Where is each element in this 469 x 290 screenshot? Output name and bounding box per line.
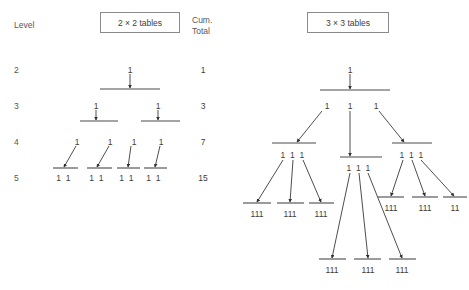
tree-arrow — [303, 160, 321, 202]
tree-node-label: 1 — [159, 137, 164, 147]
tree-node-label: 111 — [326, 265, 339, 275]
tree-arrow — [128, 146, 131, 167]
tree-arrow — [64, 146, 76, 167]
tree-arrow — [391, 160, 403, 196]
tree-node-label: 1 — [128, 65, 133, 75]
tree-arrow — [97, 146, 109, 167]
cum-total-value-level5: 15 — [198, 173, 207, 183]
tree-arrow — [421, 160, 454, 196]
tree-node-label: 11 — [451, 203, 460, 213]
cum-total-value-level4: 7 — [201, 137, 206, 147]
tree-node-label: 1 1 1 — [347, 163, 372, 173]
tree-diagram-svg — [0, 0, 469, 290]
tree-arrow — [297, 111, 322, 142]
cum-total-value-level3: 3 — [201, 101, 206, 111]
tree-node-label: 1 — [132, 137, 137, 147]
tree-arrow — [257, 160, 283, 202]
tree-arrow — [412, 160, 425, 196]
tree-arrow — [368, 173, 402, 258]
level-label-5: 5 — [14, 173, 19, 184]
tree-node-label: 111 — [396, 265, 409, 275]
level-label-3: 3 — [14, 101, 19, 112]
tree-node-label: 1 — [94, 101, 99, 111]
diagram-canvas: Level 2 × 2 tables Cum. Total 3 × 3 tabl… — [0, 0, 469, 290]
cum-total-value-level2: 1 — [201, 65, 206, 75]
tree-node-label: 111 — [315, 209, 328, 219]
tree-arrow — [290, 160, 293, 202]
tree-node-label: 1 — [156, 101, 161, 111]
tree-node-label: 1 — [325, 101, 330, 111]
tree-node-label: 1 — [348, 65, 353, 75]
tree-arrow — [359, 173, 368, 258]
tree-node-label: 1 1 — [89, 173, 104, 183]
tree-node-label: 111 — [284, 209, 297, 219]
tree-node-label: 1 1 — [119, 173, 134, 183]
tree-arrow — [332, 173, 350, 258]
tree-node-label: 111 — [362, 265, 375, 275]
tree-node-label: 1 1 — [56, 173, 71, 183]
tree-node-label: 1 — [374, 101, 379, 111]
left-tree-bars — [53, 89, 180, 168]
cum-total-header-line1: Cum. — [192, 15, 212, 26]
tree-node-label: 1 — [75, 137, 80, 147]
cum-total-header-line2: Total — [192, 26, 210, 37]
level-label-2: 2 — [14, 65, 19, 76]
tree-node-label: 1 1 — [146, 173, 161, 183]
right-tree-bars — [243, 90, 467, 259]
tree-arrow — [379, 111, 404, 142]
tree-node-label: 1 — [108, 137, 113, 147]
tree-node-label: 1 1 1 — [400, 150, 425, 160]
level-column-header: Level — [14, 20, 34, 31]
level-label-4: 4 — [14, 137, 19, 148]
left-tree-title-box: 2 × 2 tables — [100, 12, 180, 33]
tree-arrow — [155, 146, 160, 167]
tree-node-label: 1 — [348, 101, 353, 111]
tree-node-label: 111 — [251, 209, 264, 219]
tree-node-label: 1 1 1 — [281, 150, 306, 160]
tree-node-label: 111 — [385, 203, 398, 213]
right-tree-title-box: 3 × 3 tables — [307, 12, 389, 33]
tree-node-label: 111 — [419, 203, 432, 213]
